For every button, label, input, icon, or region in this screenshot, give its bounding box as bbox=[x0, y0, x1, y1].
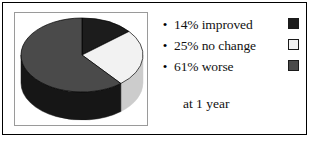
figure-container: • 14% improved • 25% no change • 61% wor… bbox=[0, 0, 315, 147]
chart-legend: • 14% improved • 25% no change • 61% wor… bbox=[160, 14, 305, 77]
legend-item-no-change[interactable]: • 25% no change bbox=[160, 35, 305, 56]
pie-chart-3d bbox=[14, 12, 148, 126]
bullet-icon: • bbox=[160, 18, 170, 31]
bullet-icon: • bbox=[160, 39, 170, 52]
legend-swatch-no-change bbox=[288, 39, 299, 50]
legend-item-improved[interactable]: • 14% improved bbox=[160, 14, 305, 35]
legend-label-improved: 14% improved bbox=[170, 17, 253, 33]
chart-caption: at 1 year bbox=[183, 96, 229, 112]
legend-label-worse: 61% worse bbox=[170, 59, 233, 75]
legend-item-worse[interactable]: • 61% worse bbox=[160, 56, 305, 77]
legend-swatch-improved bbox=[288, 18, 299, 29]
bullet-icon: • bbox=[160, 60, 170, 73]
legend-swatch-worse bbox=[288, 60, 299, 71]
legend-label-no-change: 25% no change bbox=[170, 38, 256, 54]
